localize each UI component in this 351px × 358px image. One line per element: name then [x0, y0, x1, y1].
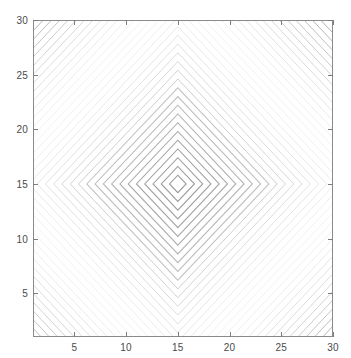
- contour-ring: [62, 62, 294, 307]
- x-tick-mark-top: [126, 20, 127, 25]
- y-tick-mark-right: [328, 239, 333, 240]
- x-tick-mark-top: [281, 20, 282, 25]
- contour-ring: [120, 123, 236, 245]
- x-tick-mark-top: [230, 20, 231, 25]
- y-tick-mark-right: [328, 20, 333, 21]
- contour-ring: [128, 132, 227, 237]
- y-tick-label: 15: [0, 178, 28, 189]
- plot-area: [33, 20, 333, 337]
- x-tick-label: 20: [224, 342, 236, 353]
- contour-lines: [33, 20, 333, 337]
- x-tick-mark-top: [74, 20, 75, 25]
- y-tick-mark-right: [328, 184, 333, 185]
- contour-ring: [103, 105, 252, 262]
- contour-ring: [153, 158, 203, 210]
- y-tick-mark-right: [328, 293, 333, 294]
- y-tick-mark: [33, 293, 38, 294]
- contour-figure: 51015202530 51015202530: [0, 0, 351, 358]
- contour-ring: [112, 114, 244, 254]
- x-tick-label: 30: [327, 342, 339, 353]
- y-tick-mark-right: [328, 129, 333, 130]
- y-tick-mark: [33, 184, 38, 185]
- y-tick-label: 25: [0, 69, 28, 80]
- y-tick-mark: [33, 75, 38, 76]
- y-tick-mark: [33, 129, 38, 130]
- x-tick-mark: [126, 332, 127, 337]
- x-tick-mark: [74, 332, 75, 337]
- x-tick-label: 10: [120, 342, 132, 353]
- x-tick-mark: [178, 332, 179, 337]
- y-tick-mark: [33, 239, 38, 240]
- x-tick-label: 25: [276, 342, 288, 353]
- x-tick-label: 15: [172, 342, 184, 353]
- y-tick-mark: [33, 20, 38, 21]
- x-tick-mark: [230, 332, 231, 337]
- y-tick-label: 20: [0, 124, 28, 135]
- y-tick-label: 10: [0, 233, 28, 244]
- contour-ring: [170, 175, 187, 192]
- y-tick-label: 5: [0, 288, 28, 299]
- y-tick-label: 30: [0, 15, 28, 26]
- contour-ring: [145, 149, 211, 219]
- y-tick-mark-right: [328, 75, 333, 76]
- contour-ring: [79, 79, 278, 289]
- x-tick-mark: [281, 332, 282, 337]
- contour-ring: [37, 35, 318, 332]
- x-tick-mark-top: [333, 20, 334, 25]
- x-tick-label: 5: [71, 342, 77, 353]
- contour-ring: [87, 88, 269, 280]
- contour-ring: [70, 70, 285, 297]
- contour-ring: [45, 44, 310, 324]
- x-tick-mark: [333, 332, 334, 337]
- contour-ring: [161, 166, 194, 201]
- x-tick-mark-top: [178, 20, 179, 25]
